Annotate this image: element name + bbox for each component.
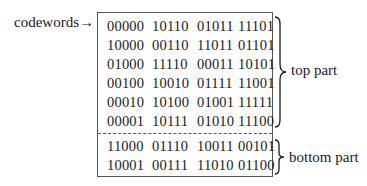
table-row: 01000 11110 00011 10101 bbox=[98, 56, 272, 77]
codeword: 00011 bbox=[197, 56, 234, 73]
table-row: 00001 10111 01010 11100 bbox=[98, 113, 272, 134]
codeword: 00111 bbox=[152, 157, 188, 174]
codeword: 00010 bbox=[107, 94, 144, 111]
codeword: 00001 bbox=[107, 113, 144, 130]
top-part-label: top part bbox=[291, 62, 337, 79]
codeword: 11100 bbox=[238, 113, 274, 130]
part-divider bbox=[98, 133, 272, 134]
table-row: 00100 10010 01111 11001 bbox=[98, 75, 272, 96]
codeword: 11000 bbox=[107, 138, 144, 155]
codeword: 00101 bbox=[238, 138, 275, 155]
codeword-table: 00000 10110 01011 11101 10000 00110 1101… bbox=[97, 12, 273, 177]
table-row: 10000 00110 11011 01101 bbox=[98, 37, 272, 58]
codeword: 11111 bbox=[238, 94, 273, 111]
codeword: 01100 bbox=[238, 157, 275, 174]
codeword: 11010 bbox=[197, 157, 234, 174]
top-brace-icon bbox=[274, 16, 288, 128]
codeword: 01001 bbox=[197, 94, 234, 111]
codeword: 10100 bbox=[152, 94, 189, 111]
codeword: 11011 bbox=[197, 37, 233, 54]
bottom-brace-icon bbox=[274, 139, 286, 175]
bottom-part-label: bottom part bbox=[289, 149, 359, 166]
table-row: 00000 10110 01011 11101 bbox=[98, 18, 272, 39]
codeword: 01000 bbox=[107, 56, 144, 73]
table-row: 10001 00111 11010 01100 bbox=[98, 157, 272, 178]
codeword: 01101 bbox=[238, 37, 275, 54]
codeword: 01111 bbox=[197, 75, 233, 92]
codeword: 11001 bbox=[238, 75, 275, 92]
codeword: 00110 bbox=[152, 37, 189, 54]
table-row: 00010 10100 01001 11111 bbox=[98, 94, 272, 115]
codeword: 11101 bbox=[238, 18, 274, 35]
codeword: 01011 bbox=[197, 18, 234, 35]
codeword: 10010 bbox=[152, 75, 189, 92]
codeword: 10110 bbox=[152, 18, 189, 35]
codeword: 00000 bbox=[107, 18, 144, 35]
codeword: 10001 bbox=[107, 157, 144, 174]
codeword: 10000 bbox=[107, 37, 144, 54]
codewords-label: codewords→ bbox=[14, 14, 94, 31]
codeword: 01110 bbox=[152, 138, 188, 155]
codeword: 10111 bbox=[152, 113, 188, 130]
codeword: 10101 bbox=[238, 56, 275, 73]
table-row: 11000 01110 10011 00101 bbox=[98, 138, 272, 159]
codeword: 10011 bbox=[197, 138, 234, 155]
codeword: 11110 bbox=[152, 56, 188, 73]
codeword: 00100 bbox=[107, 75, 144, 92]
codeword: 01010 bbox=[197, 113, 234, 130]
